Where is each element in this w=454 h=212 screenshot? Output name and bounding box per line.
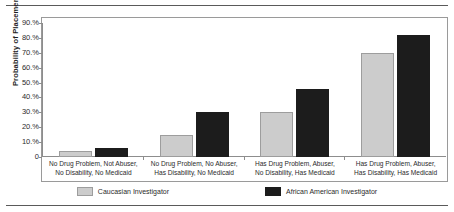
y-tick-mark	[39, 68, 42, 69]
bar-african-american[interactable]	[397, 35, 430, 157]
y-axis-title: Probability of Placement	[11, 0, 20, 101]
bar-caucasian[interactable]	[59, 151, 92, 157]
y-tick-mark	[39, 83, 42, 84]
y-tick-mark	[39, 23, 42, 24]
category-label-line: No Disability, Has Medicaid	[246, 169, 345, 178]
bar-african-american[interactable]	[196, 112, 229, 157]
category-label-line: Has Disability, No Medicaid	[145, 169, 244, 178]
bar-group	[144, 23, 245, 157]
x-axis-category-label: Has Drug Problem, Abuser,No Disability, …	[245, 160, 346, 177]
legend-item-label: Caucasian Investigator	[98, 188, 169, 195]
legend-item-label: African American Investigator	[286, 188, 377, 195]
y-tick-label: 20.%	[22, 122, 39, 131]
y-tick-mark	[39, 142, 42, 143]
plot-area: 90.%80.%70.%60.%50.%40.%30.%20.%10.%0	[42, 23, 446, 157]
chart-legend: Caucasian InvestigatorAfrican American I…	[0, 187, 454, 196]
african-american-swatch	[265, 187, 281, 196]
category-label-line: No Drug Problem, Not Abuser,	[44, 160, 143, 169]
y-tick-label: 50.%	[22, 78, 39, 87]
y-tick-label: 60.%	[22, 63, 39, 72]
bar-caucasian[interactable]	[160, 135, 193, 157]
legend-item[interactable]: African American Investigator	[265, 187, 377, 196]
bar-caucasian[interactable]	[361, 53, 394, 157]
y-tick-label: 80.%	[22, 33, 39, 42]
caucasian-swatch	[77, 187, 93, 196]
y-tick-mark	[39, 97, 42, 98]
y-tick-mark	[39, 112, 42, 113]
bar-groups	[43, 23, 446, 157]
bar-african-american[interactable]	[296, 89, 329, 157]
bar-group	[43, 23, 144, 157]
bar-african-american[interactable]	[95, 148, 128, 157]
category-label-line: Has Drug Problem, Abuser,	[346, 160, 445, 169]
y-tick-mark	[39, 127, 42, 128]
y-tick-mark	[39, 157, 42, 158]
y-tick-mark	[39, 53, 42, 54]
y-tick-label: 10.%	[22, 137, 39, 146]
x-axis-category-label: No Drug Problem, Not Abuser,No Disabilit…	[43, 160, 144, 177]
y-tick-label: 70.%	[22, 48, 39, 57]
x-axis-category-label: No Drug Problem, No Abuser,Has Disabilit…	[144, 160, 245, 177]
bar-chart: Probability of Placement 90.%80.%70.%60.…	[0, 0, 454, 212]
bar-group	[245, 23, 346, 157]
x-axis-category-labels: No Drug Problem, Not Abuser,No Disabilit…	[43, 160, 446, 177]
y-tick-mark	[39, 38, 42, 39]
category-label-line: Has Drug Problem, Abuser,	[246, 160, 345, 169]
category-label-line: No Disability, No Medicaid	[44, 169, 143, 178]
y-tick-label: 30.%	[22, 107, 39, 116]
legend-item[interactable]: Caucasian Investigator	[77, 187, 169, 196]
category-label-line: No Drug Problem, No Abuser,	[145, 160, 244, 169]
bar-group	[345, 23, 446, 157]
y-tick-label: 90.%	[22, 18, 39, 27]
bar-caucasian[interactable]	[260, 112, 293, 157]
category-label-line: Has Disability, Has Medicaid	[346, 169, 445, 178]
x-axis-category-label: Has Drug Problem, Abuser,Has Disability,…	[345, 160, 446, 177]
y-tick-label: 40.%	[22, 92, 39, 101]
